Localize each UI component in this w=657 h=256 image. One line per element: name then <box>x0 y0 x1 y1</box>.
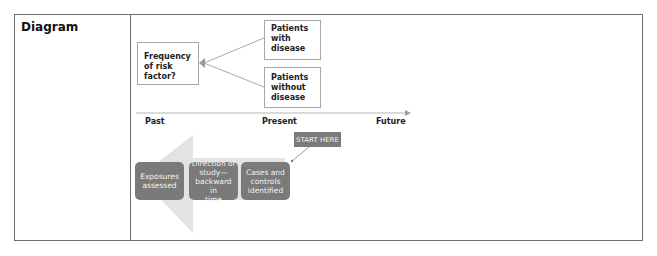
row-label: Diagram <box>21 20 78 34</box>
step-exposures-assessed: Exposures assessed <box>135 162 184 200</box>
timeline-future: Future <box>376 117 406 126</box>
content-table: Diagram <box>14 14 643 241</box>
timeline-present: Present <box>262 117 297 126</box>
step-direction-of-study: Direction of study— backward in time <box>189 162 238 200</box>
column-divider <box>130 15 131 240</box>
patients-without-disease-box: Patients without disease <box>264 67 321 108</box>
risk-factor-box: Frequency of risk factor? <box>137 42 199 85</box>
patients-with-disease-box: Patients with disease <box>264 20 321 60</box>
start-here-label: START HERE <box>294 132 341 147</box>
step-cases-controls-identified: Cases and controls identified <box>241 162 290 200</box>
timeline-past: Past <box>145 117 165 126</box>
